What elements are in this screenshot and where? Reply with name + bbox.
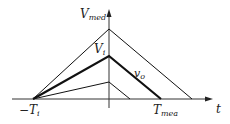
- ramp-max: [33, 29, 192, 99]
- voltage-axis-arrow-icon: [107, 9, 112, 17]
- end-time-label: Tmea: [153, 103, 178, 118]
- x-axis-label: t: [216, 102, 221, 116]
- time-axis-arrow-icon: [205, 97, 213, 102]
- y-axis-label: Vmed: [80, 7, 106, 22]
- integrating-adc-diagram: Vmed t Vi vo −Ti Tmea: [0, 0, 230, 124]
- peak-label: Vi: [94, 42, 106, 57]
- start-time-label: −Ti: [19, 103, 40, 118]
- output-label: vo: [134, 67, 145, 81]
